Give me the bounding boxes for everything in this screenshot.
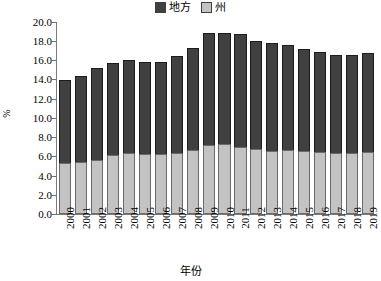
bar-segment-zhou[interactable] <box>155 154 167 214</box>
bar-segment-difang[interactable] <box>330 55 342 153</box>
bar-segment-zhou[interactable] <box>298 151 310 214</box>
bar-segment-difang[interactable] <box>91 68 103 160</box>
bar-slot <box>344 22 360 214</box>
bar-segment-difang[interactable] <box>107 63 119 155</box>
stacked-bar[interactable] <box>218 33 230 214</box>
x-axis-title: 年份 <box>0 262 381 278</box>
bar-segment-zhou[interactable] <box>346 153 358 214</box>
stacked-bar-chart: 地方 州 % 20.0 18.0 16.0 14.0 12.0 10.0 8.0… <box>0 0 381 281</box>
x-label-slot: 2013 <box>264 216 280 260</box>
stacked-bar[interactable] <box>59 80 71 214</box>
bar-segment-zhou[interactable] <box>362 152 374 214</box>
stacked-bar[interactable] <box>123 60 135 214</box>
bar-segment-difang[interactable] <box>346 55 358 153</box>
x-label-slot: 2009 <box>201 216 217 260</box>
y-tick-label: 6.0 <box>12 151 52 162</box>
x-label-slot: 2001 <box>73 216 89 260</box>
bar-segment-zhou[interactable] <box>187 150 199 214</box>
stacked-bar[interactable] <box>346 55 358 214</box>
bar-segment-difang[interactable] <box>171 56 183 153</box>
legend-entry-zhou: 州 <box>201 2 226 13</box>
y-tick-label: 12.0 <box>12 94 52 105</box>
x-label-slot: 2014 <box>280 216 296 260</box>
bar-segment-difang[interactable] <box>314 52 326 152</box>
bar-segment-difang[interactable] <box>362 53 374 152</box>
stacked-bar[interactable] <box>250 41 262 214</box>
bar-slot <box>312 22 328 214</box>
bar-segment-difang[interactable] <box>75 76 87 162</box>
bar-slot <box>232 22 248 214</box>
bar-segment-zhou[interactable] <box>234 147 246 214</box>
bar-segment-difang[interactable] <box>59 80 71 164</box>
bar-segment-difang[interactable] <box>266 43 278 151</box>
bar-slot <box>264 22 280 214</box>
stacked-bar[interactable] <box>139 62 151 214</box>
stacked-bar[interactable] <box>282 45 294 214</box>
y-tick-label: 4.0 <box>12 171 52 182</box>
x-label-slot: 2019 <box>360 216 376 260</box>
x-label-slot: 2018 <box>344 216 360 260</box>
stacked-bar[interactable] <box>298 49 310 214</box>
stacked-bar[interactable] <box>203 33 215 214</box>
stacked-bar[interactable] <box>330 55 342 214</box>
bar-segment-zhou[interactable] <box>107 155 119 214</box>
bar-segment-difang[interactable] <box>139 62 151 153</box>
x-label-slot: 2004 <box>121 216 137 260</box>
y-tick-label: 16.0 <box>12 55 52 66</box>
x-tick-label: 2019 <box>368 207 379 229</box>
bar-slot <box>185 22 201 214</box>
bar-segment-difang[interactable] <box>187 48 199 150</box>
bar-segment-zhou[interactable] <box>139 154 151 214</box>
bar-slot <box>121 22 137 214</box>
bar-slot <box>153 22 169 214</box>
bar-slot <box>73 22 89 214</box>
legend-label-zhou: 州 <box>215 2 226 13</box>
plot-area <box>57 22 376 214</box>
bar-segment-zhou[interactable] <box>314 152 326 214</box>
y-tick-label: 0.0 <box>12 209 52 220</box>
stacked-bar[interactable] <box>234 34 246 214</box>
bar-slot <box>89 22 105 214</box>
bar-segment-difang[interactable] <box>203 33 215 145</box>
stacked-bar[interactable] <box>362 53 374 214</box>
bar-segment-zhou[interactable] <box>218 144 230 214</box>
bar-segment-difang[interactable] <box>234 34 246 147</box>
bar-segment-difang[interactable] <box>250 41 262 149</box>
x-axis-tick-labels: 2000200120022003200420052006200720082009… <box>57 216 376 260</box>
bar-segment-difang[interactable] <box>155 62 167 154</box>
legend-label-difang: 地方 <box>169 2 191 13</box>
legend-entry-difang: 地方 <box>155 2 191 13</box>
bar-segment-difang[interactable] <box>218 33 230 144</box>
bar-slot <box>105 22 121 214</box>
stacked-bar[interactable] <box>75 76 87 214</box>
bar-segment-difang[interactable] <box>123 60 135 152</box>
stacked-bar[interactable] <box>266 43 278 214</box>
y-tick-label: 8.0 <box>12 132 52 143</box>
bar-segment-difang[interactable] <box>282 45 294 150</box>
stacked-bar[interactable] <box>187 48 199 214</box>
stacked-bar[interactable] <box>155 62 167 214</box>
chart-legend: 地方 州 <box>0 2 381 13</box>
stacked-bar[interactable] <box>107 63 119 214</box>
stacked-bar[interactable] <box>91 68 103 214</box>
x-label-slot: 2005 <box>137 216 153 260</box>
bar-segment-zhou[interactable] <box>282 150 294 214</box>
bar-segment-zhou[interactable] <box>91 160 103 214</box>
bar-slot <box>217 22 233 214</box>
bar-segment-zhou[interactable] <box>250 149 262 214</box>
x-label-slot: 2008 <box>185 216 201 260</box>
bar-segment-zhou[interactable] <box>330 153 342 214</box>
bar-segment-zhou[interactable] <box>266 151 278 214</box>
stacked-bar[interactable] <box>171 56 183 214</box>
bar-slot <box>57 22 73 214</box>
bar-slot <box>280 22 296 214</box>
bar-segment-difang[interactable] <box>298 49 310 151</box>
x-label-slot: 2002 <box>89 216 105 260</box>
bar-segment-zhou[interactable] <box>123 153 135 214</box>
bar-segment-zhou[interactable] <box>203 145 215 214</box>
bar-segment-zhou[interactable] <box>171 153 183 214</box>
legend-swatch-zhou <box>201 2 212 13</box>
stacked-bar[interactable] <box>314 52 326 214</box>
x-label-slot: 2007 <box>169 216 185 260</box>
y-tick-label: 10.0 <box>12 113 52 124</box>
